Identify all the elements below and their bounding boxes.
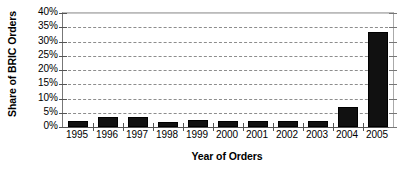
bar-slot: [303, 13, 333, 127]
bar[interactable]: [68, 121, 88, 127]
y-axis-tick-label: 40%: [22, 7, 58, 17]
y-axis-tick-label: 15%: [22, 78, 58, 88]
bar[interactable]: [248, 121, 268, 127]
bar-slot: [153, 13, 183, 127]
bar-chart: Share of BRIC Orders 0%5%10%15%20%25%30%…: [0, 0, 402, 174]
bar-slot: [273, 13, 303, 127]
bar[interactable]: [188, 120, 208, 127]
bar-slot: [63, 13, 93, 127]
bar[interactable]: [278, 121, 298, 127]
y-axis-tick-labels: 0%5%10%15%20%25%30%35%40%: [22, 12, 58, 126]
x-axis-tick-label: 2000: [212, 128, 242, 141]
bar[interactable]: [308, 121, 328, 127]
x-axis-tick-label: 1997: [122, 128, 152, 141]
x-axis-title: Year of Orders: [62, 150, 392, 162]
x-axis-tick-labels: 1995199619971998199920002001200220032004…: [62, 128, 392, 142]
bar-slot: [243, 13, 273, 127]
bars-layer: [63, 13, 393, 127]
x-axis-tick-label: 2002: [272, 128, 302, 141]
y-axis-tick-label: 35%: [22, 21, 58, 31]
y-axis-tick-label: 25%: [22, 50, 58, 60]
bar-slot: [93, 13, 123, 127]
y-axis-tick-label: 10%: [22, 93, 58, 103]
x-axis-tick-label: 2003: [302, 128, 332, 141]
x-axis-tick-label: 1999: [182, 128, 212, 141]
plot-area: [62, 12, 394, 128]
bar[interactable]: [98, 117, 118, 127]
x-axis-tick-label: 1996: [92, 128, 122, 141]
y-axis-tick-label: 5%: [22, 107, 58, 117]
x-axis-tick-label: 2004: [332, 128, 362, 141]
y-axis-tick-label: 30%: [22, 36, 58, 46]
bar[interactable]: [338, 107, 358, 127]
bar-slot: [333, 13, 363, 127]
bar-slot: [363, 13, 393, 127]
bar[interactable]: [158, 122, 178, 127]
bar[interactable]: [218, 121, 238, 127]
y-axis-tick-label: 20%: [22, 64, 58, 74]
x-axis-tick-label: 2005: [362, 128, 392, 141]
x-axis-tick-label: 1995: [62, 128, 92, 141]
y-axis-title: Share of BRIC Orders: [5, 4, 19, 124]
x-axis-tick-label: 2001: [242, 128, 272, 141]
bar[interactable]: [128, 117, 148, 127]
bar-slot: [183, 13, 213, 127]
y-axis-tick-label: 0%: [22, 121, 58, 131]
bar-slot: [213, 13, 243, 127]
bar-slot: [123, 13, 153, 127]
x-axis-tick-label: 1998: [152, 128, 182, 141]
bar[interactable]: [368, 32, 388, 127]
